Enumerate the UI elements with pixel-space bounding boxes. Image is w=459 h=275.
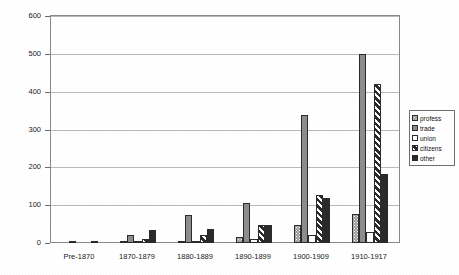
bar-group <box>120 16 156 243</box>
legend-swatch-other <box>412 155 418 161</box>
bar-union[interactable] <box>308 235 315 243</box>
x-axis: Pre-18701870-18791880-18891890-18991900-… <box>50 243 400 275</box>
bar-other[interactable] <box>323 198 330 243</box>
legend-swatch-citizens <box>412 145 418 151</box>
bar-group <box>62 16 98 243</box>
bars-layer <box>51 16 399 243</box>
bar-profess[interactable] <box>294 225 301 243</box>
legend-swatch-union <box>412 135 418 141</box>
x-category-label: 1910-1917 <box>340 252 398 261</box>
legend-label-citizens: citizens <box>420 145 442 152</box>
y-tick-label: 0 <box>37 239 41 247</box>
bar-union[interactable] <box>366 232 373 243</box>
bar-trade[interactable] <box>301 115 308 243</box>
bar-trade[interactable] <box>359 54 366 243</box>
bar-chart: 0100200300400500600 Pre-18701870-1879188… <box>0 0 459 275</box>
bar-other[interactable] <box>207 229 214 243</box>
legend-swatch-trade <box>412 125 418 131</box>
x-category-label: 1870-1879 <box>108 252 166 261</box>
bar-group <box>178 16 214 243</box>
y-axis: 0100200300400500600 <box>0 0 50 275</box>
bar-citizens[interactable] <box>374 84 381 243</box>
bar-group <box>294 16 330 243</box>
chart-legend: profess trade union citizens other <box>409 110 455 166</box>
y-tick-label: 400 <box>28 88 41 96</box>
legend-label-profess: profess <box>420 115 441 122</box>
bar-profess[interactable] <box>352 214 359 244</box>
x-category-label: 1890-1899 <box>224 252 282 261</box>
legend-label-union: union <box>420 135 436 142</box>
bar-trade[interactable] <box>243 203 250 243</box>
y-tick-label: 500 <box>28 50 41 58</box>
y-tick-label: 100 <box>28 201 41 209</box>
legend-swatch-profess <box>412 115 418 121</box>
x-category-label: 1900-1909 <box>282 252 340 261</box>
bar-citizens[interactable] <box>258 225 265 243</box>
bar-trade[interactable] <box>127 235 134 243</box>
legend-label-trade: trade <box>420 125 435 132</box>
y-tick-label: 300 <box>28 126 41 134</box>
legend-item-other[interactable]: other <box>412 153 452 163</box>
bar-citizens[interactable] <box>200 235 207 243</box>
bar-other[interactable] <box>381 174 388 243</box>
bar-group <box>236 16 272 243</box>
legend-label-other: other <box>420 155 435 162</box>
y-tick-label: 200 <box>28 163 41 171</box>
bar-other[interactable] <box>149 230 156 243</box>
bar-citizens[interactable] <box>316 195 323 243</box>
legend-item-union[interactable]: union <box>412 133 452 143</box>
x-category-label: 1880-1889 <box>166 252 224 261</box>
bar-other[interactable] <box>265 225 272 243</box>
legend-item-citizens[interactable]: citizens <box>412 143 452 153</box>
bar-trade[interactable] <box>185 215 192 243</box>
legend-item-profess[interactable]: profess <box>412 113 452 123</box>
legend-item-trade[interactable]: trade <box>412 123 452 133</box>
y-tick-label: 600 <box>28 12 41 20</box>
bar-group <box>352 16 388 243</box>
x-category-label: Pre-1870 <box>50 252 108 261</box>
